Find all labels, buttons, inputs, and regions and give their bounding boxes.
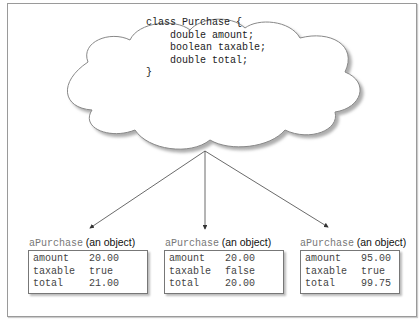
- field-row: taxablefalse: [169, 266, 279, 279]
- object-3-title: aPurchase (an object): [300, 236, 406, 249]
- field-row: amount20.00: [33, 253, 143, 266]
- object-1-title: aPurchase (an object): [29, 236, 135, 249]
- object-name: aPurchase: [165, 238, 219, 249]
- code-line: class Purchase {: [146, 17, 266, 30]
- field-row: amount20.00: [169, 253, 279, 266]
- arrow-to-object-3: [205, 151, 328, 227]
- object-1-box: amount20.00 taxabletrue total21.00: [28, 250, 148, 294]
- field-row: total99.75: [305, 278, 395, 291]
- code-line: double amount;: [146, 30, 266, 43]
- field-row: amount95.00: [305, 253, 395, 266]
- object-label: (an object): [222, 236, 272, 248]
- object-3-box: amount95.00 taxabletrue total99.75: [300, 250, 400, 294]
- object-2-box: amount20.00 taxablefalse total20.00: [164, 250, 284, 294]
- field-row: taxabletrue: [305, 266, 395, 279]
- field-row: taxabletrue: [33, 266, 143, 279]
- code-line: boolean taxable;: [146, 42, 266, 55]
- arrow-to-object-1: [90, 151, 205, 228]
- object-name: aPurchase: [300, 238, 354, 249]
- field-row: total20.00: [169, 278, 279, 291]
- object-label: (an object): [357, 236, 407, 248]
- field-row: total21.00: [33, 278, 143, 291]
- arrows: [90, 151, 328, 229]
- object-label: (an object): [86, 236, 136, 248]
- object-2-title: aPurchase (an object): [165, 236, 271, 249]
- code-line: double total;: [146, 55, 266, 68]
- code-line: }: [146, 67, 266, 80]
- class-definition: class Purchase { double amount; boolean …: [146, 17, 266, 80]
- object-name: aPurchase: [29, 238, 83, 249]
